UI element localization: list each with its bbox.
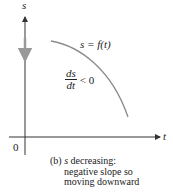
s-axis-label: s <box>22 0 26 11</box>
caption-line1-rest: decreasing: <box>68 155 116 166</box>
figure-caption: (b) s decreasing: negative slope so movi… <box>50 156 139 188</box>
t-axis-label: t <box>163 130 166 142</box>
caption-prefix: (b) <box>50 155 64 166</box>
derivative-denominator: dt <box>67 80 76 91</box>
derivative-inequality: ds dt < 0 <box>65 68 94 91</box>
origin-label: 0 <box>13 141 19 153</box>
caption-line3: moving downward <box>50 177 139 188</box>
derivative-relation: < 0 <box>80 74 94 86</box>
curve-label: s = f(t) <box>80 38 111 50</box>
